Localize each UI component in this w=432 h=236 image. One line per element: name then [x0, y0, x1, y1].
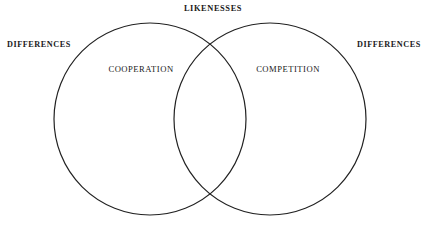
- venn-diagram: LIKENESSES DIFFERENCES DIFFERENCES COOPE…: [0, 0, 432, 236]
- diagram-background: [0, 0, 432, 236]
- label-likenesses: LIKENESSES: [184, 5, 242, 13]
- label-cooperation: COOPERATION: [108, 65, 173, 74]
- label-competition: COMPETITION: [256, 65, 320, 74]
- label-differences-left: DIFFERENCES: [7, 41, 71, 49]
- venn-circles-canvas: [0, 0, 432, 236]
- label-differences-right: DIFFERENCES: [357, 41, 421, 49]
